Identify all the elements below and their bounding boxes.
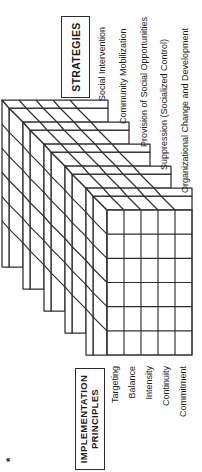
rotated-diagram-stage: STRATEGIES IMPLEMENTATION PRINCIPLES Soc… xyxy=(0,0,202,472)
principle-label: Intensity xyxy=(144,366,155,444)
principle-label: Balance xyxy=(127,366,138,444)
figure-canvas: STRATEGIES IMPLEMENTATION PRINCIPLES Soc… xyxy=(0,0,202,472)
principles-box: IMPLEMENTATION PRINCIPLES xyxy=(75,368,105,470)
strategy-label: Organizational Change and Development xyxy=(180,28,191,193)
principles-box-line2: PRINCIPLES xyxy=(90,389,101,449)
principle-label: Commitment xyxy=(178,366,189,444)
footnote-asterisk: * xyxy=(4,458,16,462)
principle-label: Targeting xyxy=(110,366,121,444)
strategies-box-label: STRATEGIES xyxy=(70,22,82,91)
strategy-label: Community Mobilization xyxy=(118,28,129,124)
strategy-label: Social Intervention xyxy=(97,27,108,101)
strategy-label: Provision of Social Opportunities xyxy=(139,17,150,147)
principle-label: Continuity xyxy=(161,366,172,444)
strategy-label: Suppression (Socialized Control) xyxy=(159,39,170,170)
strategies-box: STRATEGIES xyxy=(61,16,90,98)
